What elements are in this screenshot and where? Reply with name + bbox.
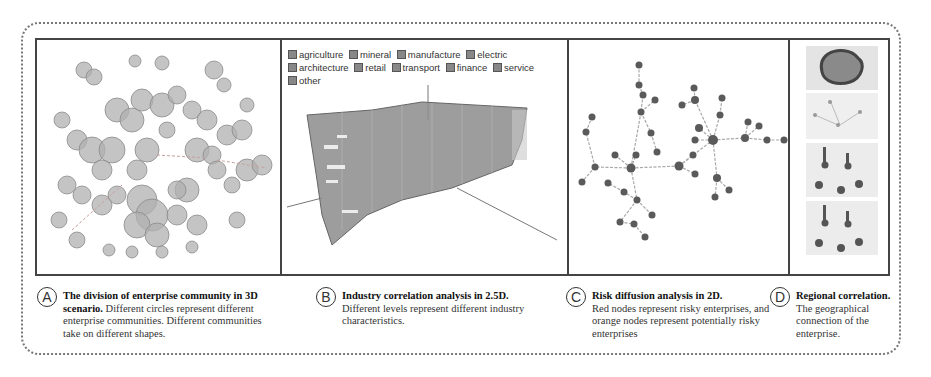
label-c-circle-icon: C bbox=[566, 287, 586, 307]
panel-d-regional-correlation bbox=[790, 40, 888, 274]
caption-b-body: Different levels represent different ind… bbox=[342, 303, 524, 327]
label-b-circle-icon: B bbox=[316, 287, 336, 307]
figure-panels-frame: agriculture mineral manufacture electric… bbox=[35, 38, 890, 276]
community-circles-plot bbox=[37, 40, 282, 274]
caption-c-body: Red nodes represent risky enterprises, a… bbox=[592, 303, 769, 339]
caption-c-title: Risk diffusion analysis in 2D. bbox=[592, 290, 722, 301]
industry-layers-plot bbox=[282, 40, 569, 274]
label-d-circle-icon: D bbox=[770, 287, 790, 307]
caption-d-title: Regional correlation. bbox=[796, 290, 890, 301]
panel-b-industry-2-5d: agriculture mineral manufacture electric… bbox=[282, 40, 569, 274]
risk-network-graph bbox=[569, 40, 790, 274]
panel-c-risk-diffusion-2d bbox=[569, 40, 790, 274]
panel-a-community-3d bbox=[37, 40, 282, 274]
caption-d-body: The geographical connection of the enter… bbox=[796, 303, 869, 339]
caption-b-title: Industry correlation analysis in 2.5D. bbox=[342, 290, 509, 301]
label-a-circle-icon: A bbox=[37, 287, 57, 307]
regional-map-thumbnails bbox=[790, 40, 888, 274]
